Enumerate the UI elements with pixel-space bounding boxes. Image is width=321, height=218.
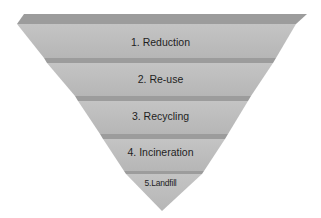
tier-5-label: 5.Landfill xyxy=(0,178,321,188)
tier-5-landfill xyxy=(124,171,204,211)
tier-3-label: 3. Recycling xyxy=(0,110,321,122)
waste-hierarchy-pyramid: 1. Reduction 2. Re-use 3. Recycling 4. I… xyxy=(0,0,321,218)
tier-1-label: 1. Reduction xyxy=(0,36,321,48)
tier-4-label: 4. Incineration xyxy=(0,146,321,158)
tier-2-label: 2. Re-use xyxy=(0,73,321,85)
